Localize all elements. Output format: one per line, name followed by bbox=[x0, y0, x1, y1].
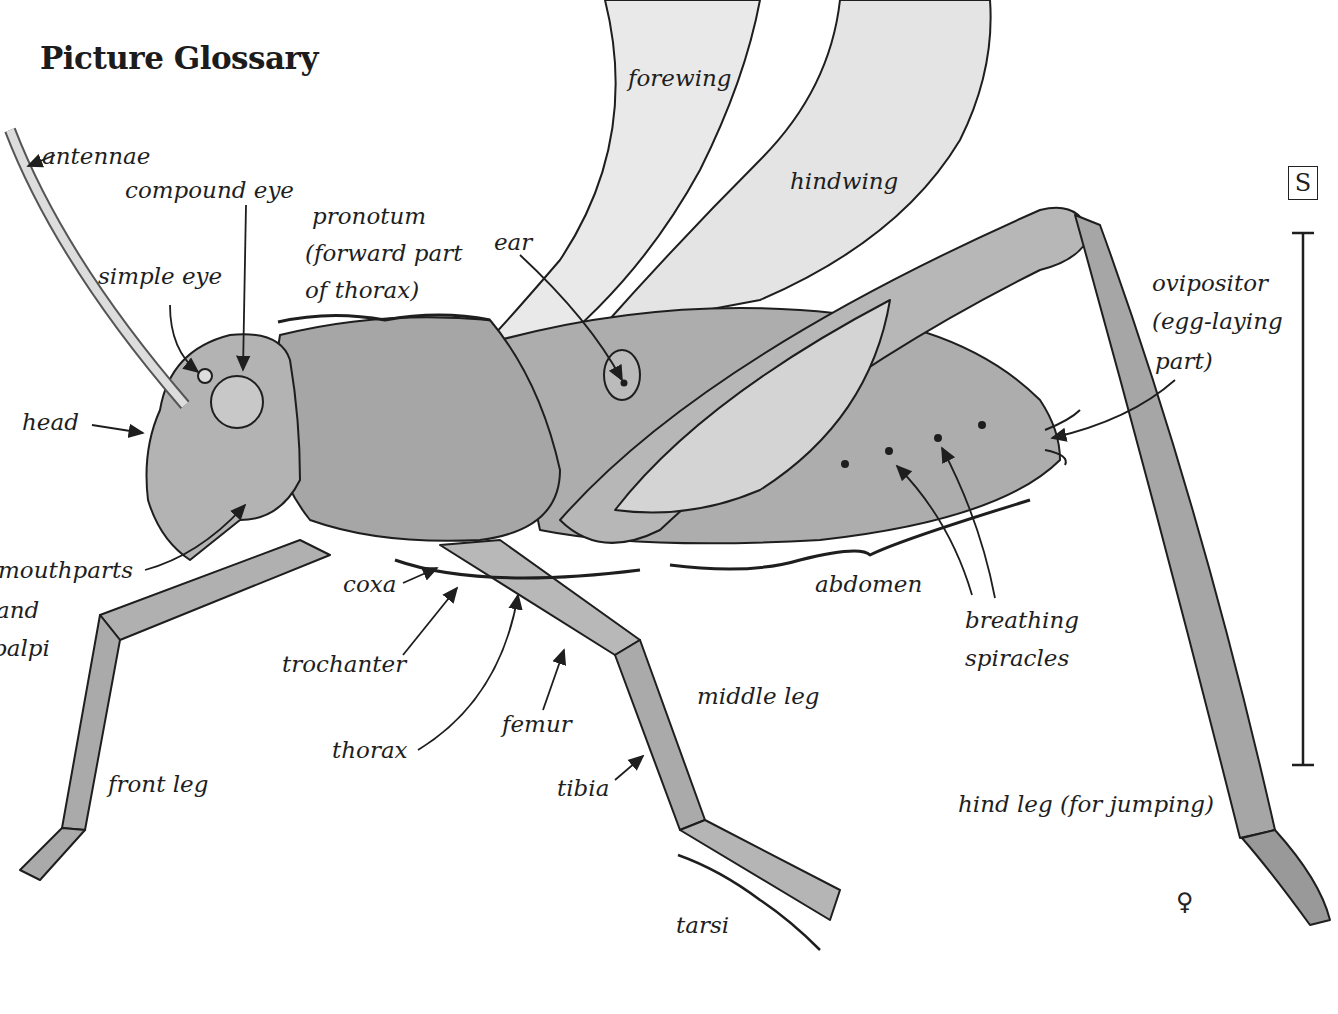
label-front-leg: front leg bbox=[108, 766, 208, 802]
middle-leg-shape bbox=[440, 540, 640, 655]
label-tibia: tibia bbox=[557, 770, 609, 806]
label-compound-eye: compound eye bbox=[125, 172, 294, 208]
label-hindwing: hindwing bbox=[790, 163, 898, 199]
label-trochanter: trochanter bbox=[282, 646, 406, 682]
label-tarsi: tarsi bbox=[676, 907, 729, 943]
label-forewing: forewing bbox=[628, 60, 732, 96]
label-head: head bbox=[22, 404, 79, 440]
label-antennae: antennae bbox=[42, 138, 150, 174]
label-middle-leg: middle leg bbox=[697, 678, 820, 714]
label-ovipositor-line3: part) bbox=[1155, 343, 1213, 379]
label-femur: femur bbox=[502, 706, 572, 742]
label-simple-eye: simple eye bbox=[98, 258, 222, 294]
label-thorax: thorax bbox=[332, 732, 408, 768]
label-breathing-spiracles-line2: spiracles bbox=[965, 640, 1069, 676]
label-pronotum: pronotum bbox=[312, 198, 426, 234]
label-mouthparts-line3: palpi bbox=[0, 630, 50, 666]
scale-marker-box: S bbox=[1288, 166, 1318, 200]
page-title: Picture Glossary bbox=[40, 40, 318, 76]
label-breathing-spiracles: breathing bbox=[965, 602, 1079, 638]
label-hind-leg: hind leg (for jumping) bbox=[958, 786, 1214, 822]
grasshopper-illustration bbox=[0, 0, 1338, 1014]
label-abdomen: abdomen bbox=[815, 566, 922, 602]
label-pronotum-line2: (forward part bbox=[305, 235, 462, 271]
front-leg-shape bbox=[100, 540, 330, 640]
label-ovipositor: ovipositor bbox=[1152, 265, 1268, 301]
label-ovipositor-line2: (egg-laying bbox=[1152, 303, 1283, 339]
label-pronotum-line3: of thorax) bbox=[305, 272, 419, 308]
label-ear: ear bbox=[494, 224, 532, 260]
scale-bar bbox=[1292, 233, 1314, 765]
label-mouthparts-line2: and bbox=[0, 592, 39, 628]
female-symbol-icon: ♀ bbox=[1176, 888, 1194, 916]
label-coxa: coxa bbox=[343, 566, 396, 602]
picture-glossary-diagram: Picture Glossary antennae compound eye s… bbox=[0, 0, 1338, 1014]
label-mouthparts: mouthparts bbox=[0, 552, 133, 588]
